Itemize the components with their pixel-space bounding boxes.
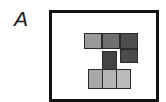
block-bottom-middle	[102, 69, 117, 89]
block-right-lower	[120, 49, 138, 63]
block-bottom-left	[88, 69, 103, 89]
block-bottom-right	[116, 69, 131, 89]
block-top-middle	[102, 33, 120, 49]
block-top-left	[84, 33, 102, 49]
block-top-right	[120, 33, 138, 49]
panel-label: A	[14, 8, 28, 29]
block-middle-stem	[102, 51, 117, 70]
